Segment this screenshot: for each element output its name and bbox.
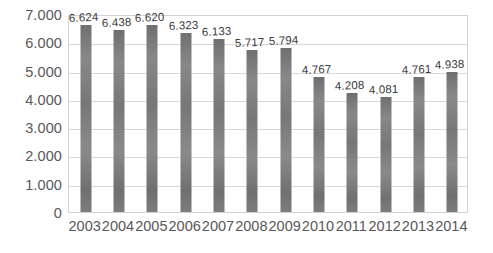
y-axis-tick-label: 7.000 <box>0 8 62 23</box>
bar[interactable] <box>113 30 124 212</box>
bar-value-label: 5.794 <box>268 35 298 48</box>
bar-value-label: 4.081 <box>368 83 398 96</box>
y-axis-tick-label: 4.000 <box>0 93 62 108</box>
bar[interactable] <box>380 97 391 212</box>
bar-value-label: 6.624 <box>68 11 98 24</box>
bar[interactable] <box>280 48 291 212</box>
y-axis-tick-label: 2.000 <box>0 149 62 164</box>
bar-slot <box>102 16 135 212</box>
bar[interactable] <box>80 25 91 212</box>
bar-value-label: 4.208 <box>335 80 365 93</box>
x-axis-tick-label: 2006 <box>169 219 201 235</box>
x-axis-tick-label: 2010 <box>302 219 334 235</box>
y-axis: 01.0002.0003.0004.0005.0006.0007.000 <box>0 0 62 253</box>
y-axis-tick-label: 1.000 <box>0 177 62 192</box>
x-axis-tick-label: 2012 <box>369 219 401 235</box>
bar[interactable] <box>147 25 158 212</box>
bar-value-label: 4.767 <box>302 64 332 77</box>
bar-slot <box>302 16 335 212</box>
y-axis-tick-label: 3.000 <box>0 121 62 136</box>
x-axis-tick-label: 2007 <box>202 219 234 235</box>
bar-value-label: 6.323 <box>168 20 198 33</box>
bar[interactable] <box>180 33 191 212</box>
x-axis-tick-label: 2011 <box>336 219 367 235</box>
x-axis: 2003200420052006200720082009201020112012… <box>68 219 468 249</box>
y-axis-tick-label: 0 <box>0 206 62 221</box>
x-axis-tick-label: 2009 <box>269 219 301 235</box>
x-axis-tick-label: 2003 <box>69 219 101 235</box>
x-axis-tick-label: 2005 <box>135 219 167 235</box>
y-axis-tick-label: 5.000 <box>0 64 62 79</box>
x-axis-tick-label: 2014 <box>435 219 467 235</box>
bar-value-label: 6.438 <box>102 17 132 30</box>
bar[interactable] <box>213 39 224 212</box>
bar-slot <box>136 16 169 212</box>
bar-value-label: 4.938 <box>435 59 465 72</box>
bar-slot <box>169 16 202 212</box>
bar-slot <box>402 16 435 212</box>
x-axis-tick-label: 2013 <box>402 219 434 235</box>
bar-value-label: 4.761 <box>402 64 432 77</box>
bar[interactable] <box>247 50 258 212</box>
bar-value-label: 5.717 <box>235 37 265 50</box>
bar-slot <box>336 16 369 212</box>
bar-slot <box>369 16 402 212</box>
bar-value-label: 6.620 <box>135 12 165 25</box>
bar-slot <box>202 16 235 212</box>
x-axis-tick-label: 2008 <box>235 219 267 235</box>
bar-chart: 01.0002.0003.0004.0005.0006.0007.000 200… <box>0 0 493 253</box>
bar-value-label: 6.133 <box>202 25 232 38</box>
y-axis-tick-label: 6.000 <box>0 36 62 51</box>
bar[interactable] <box>413 77 424 212</box>
bar-slot <box>436 16 469 212</box>
bar[interactable] <box>347 93 358 212</box>
bar-slot <box>69 16 102 212</box>
x-axis-tick-label: 2004 <box>102 219 134 235</box>
bar[interactable] <box>313 77 324 212</box>
bar[interactable] <box>447 72 458 212</box>
